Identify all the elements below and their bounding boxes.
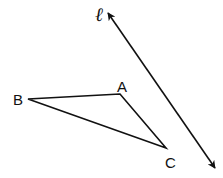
triangle-abc: [28, 94, 166, 148]
vertex-label-b: B: [13, 91, 23, 108]
vertex-label-a: A: [117, 78, 127, 95]
diagram-svg: ℓ A B C: [0, 0, 223, 178]
diagram-canvas: ℓ A B C: [0, 0, 223, 178]
vertex-label-c: C: [165, 154, 176, 171]
line-label-l: ℓ: [95, 4, 103, 25]
